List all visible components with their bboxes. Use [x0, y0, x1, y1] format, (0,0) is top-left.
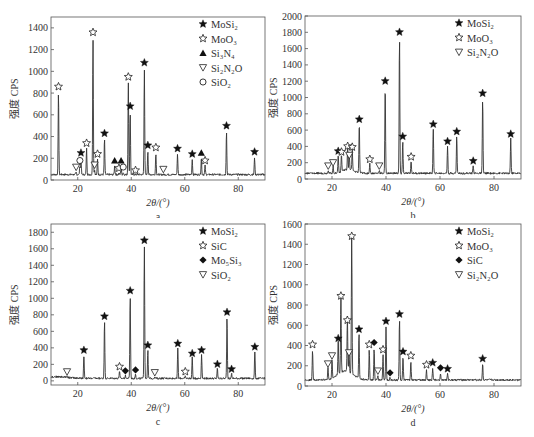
star-filled-icon: [444, 365, 452, 373]
star-filled-icon: [396, 28, 404, 36]
star-open-icon: [181, 367, 189, 375]
y-tick-label: 1400: [282, 239, 302, 250]
y-axis-label: 强度 CPS: [8, 284, 20, 324]
x-tick-label: 20: [327, 182, 337, 193]
y-tick-label: 2000: [282, 11, 302, 22]
diamond-filled-icon: [386, 369, 393, 376]
star-open-icon: [309, 340, 317, 348]
star-filled-icon: [251, 343, 259, 351]
y-tick-label: 1600: [28, 243, 48, 254]
legend-label: MoSi₂: [211, 19, 238, 30]
legend-label: Si₂N₂O: [467, 270, 499, 281]
diamond-filled-icon: [455, 256, 462, 263]
x-tick-label: 40: [381, 182, 391, 193]
star-filled-icon: [188, 150, 196, 158]
y-tick-label: 200: [33, 153, 48, 164]
x-tick-label: 80: [233, 183, 243, 194]
xrd-chart-a: 0200400600800100012001400204060802θ/(°)强…: [0, 0, 267, 218]
star-filled-icon: [174, 339, 182, 347]
y-tick-label: 800: [287, 108, 302, 119]
x-tick-label: 40: [126, 183, 136, 194]
y-tick-label: 1200: [282, 76, 302, 87]
diamond-filled-icon: [132, 366, 139, 373]
x-axis-label: 2θ/(°): [401, 403, 425, 415]
star-open-icon: [201, 156, 209, 164]
y-axis-label: 强度 CPS: [8, 78, 20, 118]
triangle-down-open-icon: [325, 163, 332, 169]
xrd-chart-b: 0200400600800100012001400160018002000204…: [267, 0, 534, 218]
chart-panel-c: 0200400600800100012001400160018002040608…: [0, 218, 267, 437]
triangle-down-open-icon: [324, 361, 331, 367]
star-open-icon: [115, 362, 123, 370]
triangle-up-filled-icon: [117, 157, 124, 163]
star-filled-icon: [126, 102, 134, 110]
triangle-down-open-icon: [455, 49, 462, 55]
y-tick-label: 1600: [282, 43, 302, 54]
x-tick-label: 20: [327, 389, 337, 400]
legend-label: Mo₅Si₃: [211, 255, 242, 266]
star-open-icon: [337, 292, 345, 300]
y-tick-label: 600: [33, 326, 48, 337]
y-tick-label: 400: [33, 131, 48, 142]
legend: MoSi₂SiCMo₅Si₃SiO₂: [199, 226, 242, 281]
triangle-down-open-icon: [160, 166, 167, 172]
y-tick-label: 1000: [28, 66, 48, 77]
panel-caption: c: [156, 416, 161, 427]
diamond-filled-icon: [122, 367, 129, 374]
xrd-trace: [305, 42, 521, 174]
star-open-icon: [199, 34, 207, 42]
star-open-icon: [89, 28, 97, 36]
y-tick-label: 400: [287, 340, 302, 351]
diamond-filled-icon: [437, 364, 444, 371]
y-tick-label: 600: [287, 125, 302, 136]
star-filled-icon: [80, 346, 88, 354]
y-tick-label: 1200: [28, 276, 48, 287]
triangle-down-open-icon: [199, 272, 206, 278]
star-filled-icon: [381, 77, 389, 85]
triangle-up-filled-icon: [199, 49, 206, 55]
y-tick-label: 1000: [28, 293, 48, 304]
circle-open-icon: [120, 164, 126, 170]
legend-label: SiO₂: [211, 270, 231, 281]
y-tick-label: 0: [297, 174, 302, 185]
star-filled-icon: [213, 360, 221, 368]
star-filled-icon: [251, 148, 259, 156]
x-tick-label: 80: [489, 389, 499, 400]
star-filled-icon: [455, 227, 463, 235]
legend-label: MoSi₂: [467, 226, 494, 237]
triangle-up-filled-icon: [198, 149, 205, 155]
star-filled-icon: [228, 365, 236, 373]
x-axis-label: 2θ/(°): [146, 402, 170, 414]
y-tick-label: 1000: [282, 92, 302, 103]
star-filled-icon: [429, 359, 437, 367]
star-filled-icon: [469, 157, 477, 165]
legend-label: MoO₃: [467, 33, 493, 44]
star-filled-icon: [198, 346, 206, 354]
x-tick-label: 60: [180, 388, 190, 399]
triangle-down-open-icon: [73, 164, 80, 170]
triangle-up-filled-icon: [111, 157, 118, 163]
y-tick-label: 600: [287, 320, 302, 331]
peak-markers: [309, 232, 487, 376]
x-axis-label: 2θ/(°): [401, 196, 425, 208]
star-filled-icon: [444, 137, 452, 145]
star-open-icon: [348, 232, 356, 240]
star-filled-icon: [188, 349, 196, 357]
legend-label: MoO₃: [211, 34, 237, 45]
x-tick-label: 60: [180, 183, 190, 194]
y-tick-label: 400: [33, 342, 48, 353]
y-tick-label: 1400: [28, 260, 48, 271]
legend-label: MoO₃: [467, 241, 493, 252]
y-tick-label: 1800: [28, 227, 48, 238]
triangle-down-open-icon: [374, 368, 381, 374]
legend-label: Si₂N₂O: [211, 63, 243, 74]
y-tick-label: 0: [43, 375, 48, 386]
y-tick-label: 600: [33, 109, 48, 120]
y-tick-label: 200: [287, 157, 302, 168]
legend-label: MoSi₂: [467, 18, 494, 29]
panel-caption: d: [411, 417, 416, 428]
triangle-down-open-icon: [63, 369, 70, 375]
legend-label: SiO₂: [211, 77, 231, 88]
circle-open-icon: [77, 157, 83, 163]
star-open-icon: [455, 241, 463, 249]
